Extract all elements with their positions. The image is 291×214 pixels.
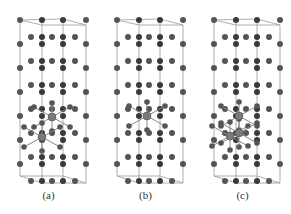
panel-label-a: (a) <box>0 189 97 201</box>
crystal-structure-a <box>0 0 97 190</box>
panel-b: (b) <box>97 0 194 214</box>
crystal-structure-b <box>97 0 194 190</box>
crystal-structure-figure: (a) (b) (c) <box>0 0 291 214</box>
crystal-structure-c <box>194 0 291 190</box>
panel-label-c: (c) <box>194 189 291 201</box>
panel-a: (a) <box>0 0 97 214</box>
panel-c: (c) <box>194 0 291 214</box>
panel-label-b: (b) <box>97 189 194 201</box>
